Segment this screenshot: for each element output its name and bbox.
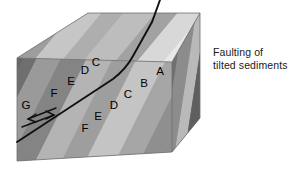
- strata-label-a: A: [156, 65, 164, 77]
- caption-line-1: Faulting of: [213, 46, 301, 59]
- strata-label-e-upper: E: [67, 75, 75, 87]
- caption-line-2: tilted sediments: [213, 59, 301, 72]
- strata-label-d-lower: D: [110, 99, 118, 111]
- figure-canvas: C D E F G A B C D E F Faulting of tilted…: [0, 0, 302, 178]
- strata-label-c-upper: C: [92, 56, 100, 68]
- strata-label-c-lower: C: [124, 88, 132, 100]
- figure-caption: Faulting of tilted sediments: [213, 46, 301, 72]
- strata-label-f-lower: F: [81, 122, 88, 134]
- strata-label-e-lower: E: [94, 110, 102, 122]
- strata-label-b: B: [140, 77, 148, 89]
- strata-label-d-upper: D: [81, 64, 89, 76]
- strata-label-f-upper: F: [50, 87, 57, 99]
- strata-label-g-upper: G: [22, 99, 31, 111]
- block-diagram: C D E F G A B C D E F: [0, 0, 302, 178]
